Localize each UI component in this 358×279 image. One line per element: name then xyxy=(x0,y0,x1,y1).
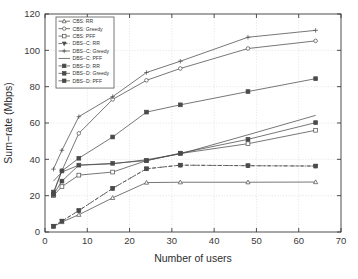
x-tick-label: 0 xyxy=(42,235,47,246)
data-point-marker xyxy=(62,72,66,76)
chart-legend: CBS: RRCBS: GreedyCBS: PFFDBS−C: RRDBS−C… xyxy=(56,17,114,88)
x-tick-label: 30 xyxy=(167,235,178,246)
data-point-marker xyxy=(178,163,182,167)
data-point-marker xyxy=(60,219,64,223)
data-point-marker xyxy=(145,110,149,114)
data-point-marker xyxy=(77,156,81,160)
legend-item-label: DBS−C: PFF xyxy=(73,55,103,61)
y-tick-label: 80 xyxy=(29,81,40,92)
legend-item-label: CBS: PFF xyxy=(73,33,96,39)
data-point-marker xyxy=(111,135,115,139)
data-point-marker xyxy=(145,167,149,171)
y-tick-label: 20 xyxy=(29,190,40,201)
legend-item-label: DBS−D: Greedy xyxy=(73,70,110,76)
data-point-marker xyxy=(111,187,115,191)
legend-item-label: DBS−D: RR xyxy=(73,63,101,69)
data-point-marker xyxy=(77,209,81,213)
data-point-marker xyxy=(62,34,66,38)
data-point-marker xyxy=(60,185,64,189)
data-point-marker xyxy=(246,164,250,168)
data-point-marker xyxy=(77,132,81,136)
data-point-marker xyxy=(60,169,64,173)
y-tick-label: 120 xyxy=(24,8,40,19)
legend-item-label: DBS−D: PFF xyxy=(73,78,103,84)
y-tick-label: 0 xyxy=(35,226,40,237)
x-tick-label: 40 xyxy=(209,235,220,246)
x-axis-label: Number of users xyxy=(154,252,232,264)
data-point-marker xyxy=(62,64,66,68)
data-point-marker xyxy=(77,173,81,177)
legend-item-label: DBS−C: Greedy xyxy=(73,48,110,54)
data-point-marker xyxy=(178,103,182,107)
x-tick-label: 70 xyxy=(336,235,347,246)
x-tick-label: 20 xyxy=(124,235,135,246)
data-point-marker xyxy=(314,128,318,132)
data-point-marker xyxy=(145,79,149,83)
data-point-marker xyxy=(246,137,250,141)
data-point-marker xyxy=(52,193,56,197)
x-tick-label: 50 xyxy=(251,235,262,246)
data-point-marker xyxy=(52,224,56,228)
data-point-marker xyxy=(246,47,250,51)
data-point-marker xyxy=(246,142,250,146)
data-point-marker xyxy=(246,90,250,94)
chart-figure: 010203040506070020406080100120 Number of… xyxy=(0,0,358,279)
y-tick-label: 100 xyxy=(24,45,40,56)
sum-rate-line-chart: 010203040506070020406080100120 Number of… xyxy=(0,0,358,279)
data-point-marker xyxy=(314,77,318,81)
data-point-marker xyxy=(111,170,115,174)
data-point-marker xyxy=(314,164,318,168)
data-point-marker xyxy=(62,27,65,30)
y-tick-label: 60 xyxy=(29,117,40,128)
legend-item-label: CBS: Greedy xyxy=(73,26,103,32)
y-axis-label: Sum−rate (Mbps) xyxy=(2,82,14,163)
data-point-marker xyxy=(314,39,318,43)
data-point-marker xyxy=(62,79,66,83)
data-point-marker xyxy=(178,151,182,155)
x-tick-label: 10 xyxy=(82,235,93,246)
y-tick-label: 40 xyxy=(29,154,40,165)
x-tick-label: 60 xyxy=(293,235,304,246)
legend-item-label: DBS−C: RR xyxy=(73,40,101,46)
data-point-marker xyxy=(77,163,81,167)
data-point-marker xyxy=(145,159,149,163)
data-point-marker xyxy=(314,121,318,125)
legend-item-label: CBS: RR xyxy=(73,18,94,24)
data-point-marker xyxy=(111,161,115,165)
data-point-marker xyxy=(60,179,64,183)
data-point-marker xyxy=(179,67,183,71)
